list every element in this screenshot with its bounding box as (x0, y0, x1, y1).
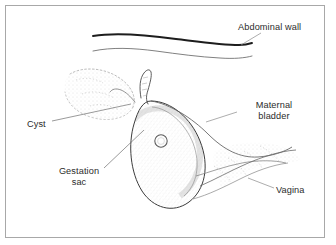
label-gestation-sac-line1: Gestation (59, 166, 99, 176)
label-gestation-sac-line2: sac (72, 177, 87, 187)
label-cyst: Cyst (27, 119, 46, 130)
label-maternal-bladder-line2: bladder (258, 111, 289, 121)
figure-root: Abdominal wall Maternal bladder Cyst Ges… (0, 0, 336, 245)
cyst-structure (52, 60, 145, 130)
maternal-bladder-leader-line (206, 112, 237, 122)
embryo-ring-inner-icon (158, 138, 165, 145)
abdominal-wall-outer-line (93, 34, 252, 45)
label-maternal-bladder: Maternal bladder (243, 100, 305, 122)
label-gestation-sac: Gestation sac (48, 166, 110, 188)
anatomy-diagram (0, 0, 336, 245)
label-vagina: Vagina (276, 185, 305, 196)
label-maternal-bladder-line1: Maternal (256, 100, 293, 110)
abdominal-wall-inner-line (93, 48, 252, 58)
abdominal-wall-structure (93, 33, 261, 58)
uterine-horn-outer (140, 70, 151, 104)
label-abdominal-wall: Abdominal wall (238, 22, 301, 33)
vagina-leader-line (248, 178, 274, 188)
